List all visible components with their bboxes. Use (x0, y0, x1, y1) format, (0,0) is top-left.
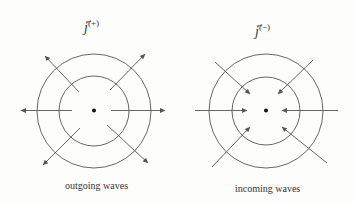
source-point-dot (92, 109, 96, 113)
current-vector-symbol: j (84, 21, 88, 35)
incoming-arrow-upper-left (215, 62, 250, 94)
sink-point-dot (264, 109, 268, 113)
outgoing-waves-caption: outgoing waves (65, 181, 128, 191)
outgoing-arrow-upper-right (110, 54, 145, 90)
incoming-current-title: j(−) (255, 20, 270, 39)
current-vector-symbol: j (255, 25, 259, 39)
wave-diagram (0, 0, 355, 204)
incoming-waves-figure (195, 54, 338, 168)
incoming-waves-caption: incoming waves (235, 184, 300, 194)
outgoing-waves-figure (21, 54, 165, 168)
outgoing-arrow-lower-left (43, 128, 80, 165)
incoming-arrow-lower-right (282, 127, 327, 163)
incoming-arrow-upper-right (278, 60, 313, 94)
incoming-arrow-lower-left (212, 127, 250, 167)
outgoing-current-title: j(+) (84, 16, 99, 35)
